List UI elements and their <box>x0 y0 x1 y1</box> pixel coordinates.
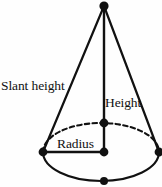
height-label: Height <box>105 96 141 110</box>
base-left-vertex-dot <box>39 148 48 157</box>
base-ellipse-front-arc <box>43 152 159 181</box>
radius-label: Radius <box>57 137 94 151</box>
slant-line-right <box>104 6 159 152</box>
cone-vector-graphic <box>0 0 162 187</box>
apex-vertex-dot <box>99 1 108 10</box>
slant-height-label: Slant height <box>1 79 65 93</box>
base-center-dot <box>100 148 109 157</box>
base-back-vertex-dot <box>100 119 109 128</box>
cone-diagram-figure: Slant height Height Radius <box>0 0 162 187</box>
base-front-vertex-dot <box>100 177 108 185</box>
base-right-vertex-dot <box>155 148 162 157</box>
